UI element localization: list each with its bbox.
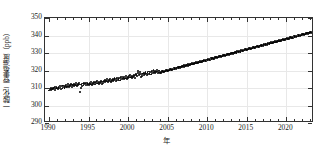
x-axis-tick-mark: [57, 119, 58, 121]
data-point-layer: [45, 18, 312, 121]
y-axis-tick-mark: [45, 53, 49, 54]
x-axis-tick-mark: [89, 117, 90, 121]
x-axis-tick-mark: [128, 117, 129, 121]
x-axis-tick-mark: [89, 18, 90, 22]
x-axis-tick-mark: [176, 119, 177, 121]
y-axis-tick-label: 300: [18, 101, 42, 108]
x-axis-tick-mark: [144, 18, 145, 20]
x-axis-tick-mark: [160, 18, 161, 20]
data-point: [134, 77, 136, 79]
data-point: [79, 91, 81, 93]
x-axis-tick-mark: [263, 18, 264, 20]
y-axis-tick-mark: [308, 88, 312, 89]
x-axis-tick-mark: [255, 18, 256, 20]
y-axis-tick-label: 330: [18, 48, 42, 55]
x-axis-tick-mark: [191, 119, 192, 121]
y-axis-tick-mark: [45, 88, 49, 89]
plot-area: [44, 17, 313, 122]
x-axis-tick-mark: [223, 18, 224, 20]
y-axis-tick-mark: [45, 36, 49, 37]
x-axis-tick-mark: [183, 18, 184, 20]
x-axis-tick-mark: [207, 18, 208, 22]
x-axis-tick-mark: [191, 18, 192, 20]
x-axis-tick-label: 2000: [107, 124, 147, 132]
x-axis-tick-mark: [231, 119, 232, 121]
x-axis-tick-label: 2015: [226, 124, 266, 132]
x-axis-tick-mark: [176, 18, 177, 20]
x-axis-tick-mark: [65, 119, 66, 121]
x-axis-tick-mark: [112, 119, 113, 121]
x-axis-tick-mark: [128, 18, 129, 22]
x-axis-tick-mark: [81, 119, 82, 121]
x-axis-tick-mark: [247, 117, 248, 121]
y-axis-tick-mark: [45, 71, 49, 72]
x-axis-tick-label: 2020: [265, 124, 305, 132]
x-axis-tick-mark: [136, 18, 137, 20]
x-axis-tick-mark: [239, 18, 240, 20]
x-axis-label: 年: [0, 137, 333, 145]
x-axis-tick-mark: [310, 119, 311, 121]
x-axis-tick-mark: [302, 119, 303, 121]
x-axis-tick-mark: [215, 119, 216, 121]
x-axis-tick-mark: [207, 117, 208, 121]
x-axis-tick-label: 1995: [68, 124, 108, 132]
y-axis-tick-mark: [308, 106, 312, 107]
x-axis-tick-mark: [96, 119, 97, 121]
x-axis-tick-mark: [270, 119, 271, 121]
x-axis-tick-mark: [286, 18, 287, 22]
x-axis-tick-mark: [104, 18, 105, 20]
y-axis-tick-label: 340: [18, 31, 42, 38]
y-axis-label: 一酸化二窒素濃度（ppb）: [1, 14, 15, 126]
x-axis-tick-mark: [65, 18, 66, 20]
x-axis-tick-mark: [294, 18, 295, 20]
x-axis-tick-mark: [49, 18, 50, 22]
x-axis-tick-mark: [57, 18, 58, 20]
x-axis-tick-labels: 1990199520002005201020152020: [0, 124, 333, 136]
x-axis-tick-mark: [183, 119, 184, 121]
x-axis-tick-mark: [96, 18, 97, 20]
x-axis-tick-mark: [160, 119, 161, 121]
x-axis-tick-mark: [73, 119, 74, 121]
x-axis-tick-mark: [223, 119, 224, 121]
x-axis-tick-mark: [136, 119, 137, 121]
x-axis-tick-mark: [199, 18, 200, 20]
x-axis-tick-mark: [239, 119, 240, 121]
x-axis-tick-mark: [247, 18, 248, 22]
x-axis-tick-mark: [215, 18, 216, 20]
x-axis-tick-mark: [278, 18, 279, 20]
x-axis-tick-label: 1990: [28, 124, 68, 132]
x-axis-tick-mark: [286, 117, 287, 121]
x-axis-tick-mark: [112, 18, 113, 20]
x-axis-tick-mark: [152, 18, 153, 20]
x-axis-tick-mark: [168, 117, 169, 121]
y-axis-tick-mark: [308, 71, 312, 72]
y-axis-tick-label: 310: [18, 83, 42, 90]
x-axis-tick-mark: [270, 18, 271, 20]
x-axis-tick-mark: [120, 119, 121, 121]
y-axis-tick-label: 350: [18, 13, 42, 20]
x-axis-tick-mark: [168, 18, 169, 22]
x-axis-tick-mark: [49, 117, 50, 121]
x-axis-tick-mark: [144, 119, 145, 121]
x-axis-tick-mark: [120, 18, 121, 20]
x-axis-tick-mark: [152, 119, 153, 121]
x-axis-tick-mark: [263, 119, 264, 121]
x-axis-tick-mark: [255, 119, 256, 121]
y-axis-tick-mark: [308, 36, 312, 37]
x-axis-tick-mark: [81, 18, 82, 20]
x-axis-tick-label: 2010: [186, 124, 226, 132]
x-axis-tick-mark: [302, 18, 303, 20]
chart-figure: 一酸化二窒素濃度（ppb） 290300310320330340350 1990…: [0, 0, 333, 158]
x-axis-tick-mark: [199, 119, 200, 121]
x-axis-tick-label: 2005: [147, 124, 187, 132]
y-axis-tick-label: 320: [18, 66, 42, 73]
x-axis-tick-mark: [73, 18, 74, 20]
y-axis-tick-mark: [308, 53, 312, 54]
x-axis-tick-mark: [104, 119, 105, 121]
x-axis-tick-mark: [310, 18, 311, 20]
data-point: [311, 32, 312, 34]
y-axis-tick-mark: [45, 106, 49, 107]
x-axis-tick-mark: [278, 119, 279, 121]
x-axis-tick-mark: [231, 18, 232, 20]
x-axis-tick-mark: [294, 119, 295, 121]
